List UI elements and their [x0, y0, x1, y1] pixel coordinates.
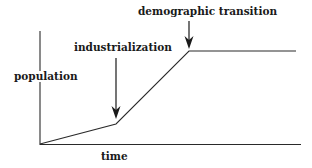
y-axis-label: population	[13, 71, 79, 82]
demographic-transition-arrow	[185, 21, 194, 49]
demographic-transition-label: demographic transition	[138, 6, 277, 17]
diagram-svg	[0, 0, 312, 168]
industrialization-arrow	[112, 58, 121, 119]
population-curve	[40, 51, 296, 144]
industrialization-label: industrialization	[74, 42, 172, 53]
x-axis-label: time	[101, 151, 128, 162]
population-diagram: population time industrialization demogr…	[0, 0, 312, 168]
